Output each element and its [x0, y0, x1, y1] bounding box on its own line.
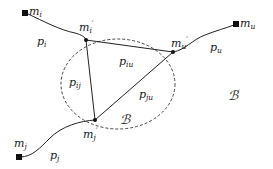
label-mj-prime: mj′ — [83, 127, 97, 142]
label-pi: pi — [37, 36, 46, 49]
diagram-canvas — [0, 0, 273, 169]
label-pij: pij — [69, 77, 81, 90]
endpoint-mi-square — [22, 10, 28, 16]
label-pu: pu — [210, 42, 222, 55]
label-pju: pju — [139, 89, 153, 102]
node-mi-prime-dot — [84, 38, 88, 42]
label-mu: mu — [240, 18, 255, 31]
label-region-b: ℬ — [120, 113, 130, 126]
label-mi: mi — [29, 6, 42, 19]
node-mu-prime-dot — [171, 50, 175, 54]
edge-pij — [86, 40, 95, 120]
endpoint-mu-square — [233, 21, 239, 27]
label-mi-prime: mi′ — [79, 20, 94, 35]
label-piu: piu — [119, 56, 133, 69]
edge-piu — [86, 40, 173, 52]
label-mj: mj — [14, 138, 27, 151]
edge-pju — [95, 52, 173, 120]
endpoint-mj-square — [16, 154, 22, 160]
node-mj-prime-dot — [93, 118, 97, 122]
label-region-b-prime: ℬ′ — [228, 89, 240, 102]
label-mu-prime: mu′ — [171, 36, 188, 51]
label-pj: pj — [50, 150, 59, 163]
